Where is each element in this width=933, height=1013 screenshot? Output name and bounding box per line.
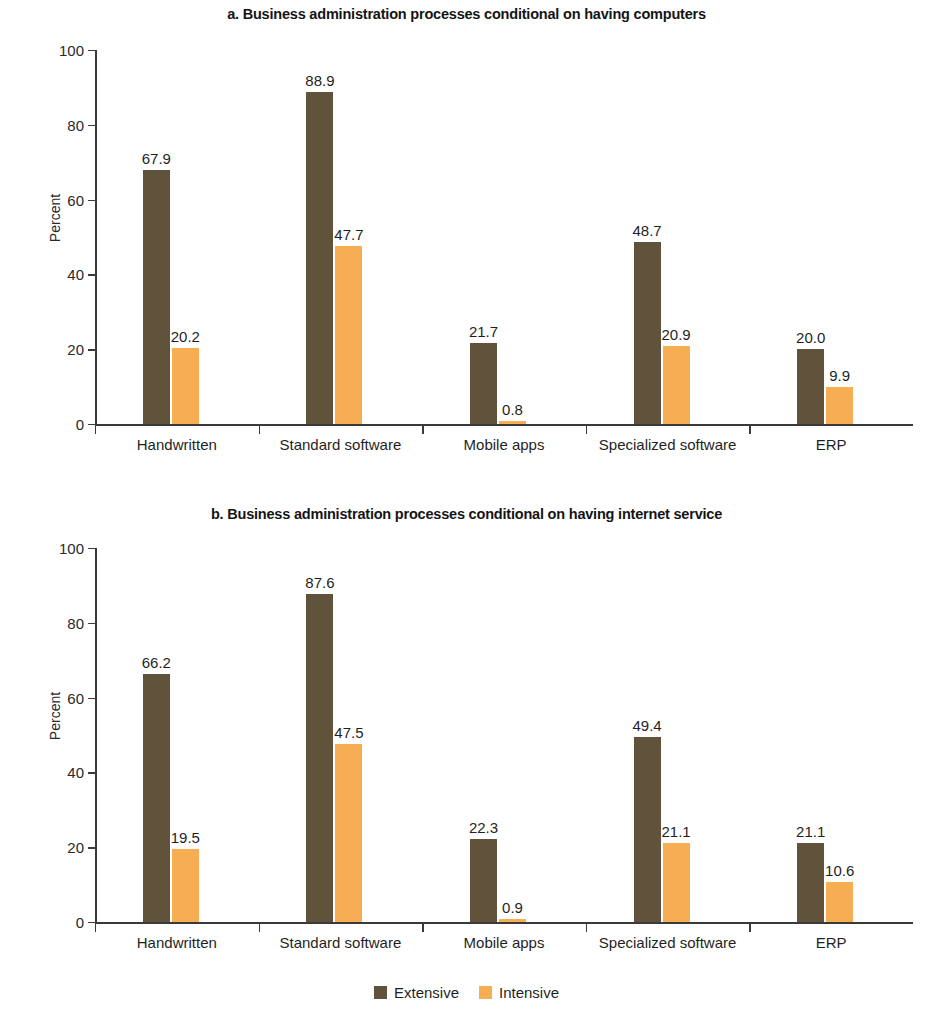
y-tick-label: 0 (76, 914, 84, 931)
bar-extensive: 22.3 (470, 839, 497, 922)
panel-a-y-axis-title: Percent (47, 188, 63, 248)
bar-intensive: 20.9 (663, 346, 690, 424)
bar-intensive: 9.9 (826, 387, 853, 424)
bar-value-label: 20.9 (661, 326, 690, 343)
chart-panel-a: a. Business administration processes con… (0, 0, 933, 480)
panel-a-x-axis-line (95, 424, 913, 426)
bar-intensive: 0.9 (499, 919, 526, 922)
y-tick-label: 40 (67, 764, 84, 781)
bar-intensive: 19.5 (172, 849, 199, 922)
bar-group: 21.110.6ERP (797, 548, 853, 922)
bar-group: 22.30.9Mobile apps (470, 548, 526, 922)
y-tick-mark (88, 200, 95, 201)
y-tick-mark (88, 274, 95, 275)
panel-b-y-axis-title: Percent (47, 686, 63, 746)
x-tick-mark (749, 922, 750, 932)
y-tick-mark (88, 349, 95, 350)
bar-intensive: 10.6 (826, 882, 853, 922)
x-axis-category-label: Handwritten (137, 934, 217, 951)
y-tick-label: 40 (67, 266, 84, 283)
panel-b-y-axis-line (95, 548, 97, 922)
x-tick-mark (586, 922, 587, 932)
legend-swatch-icon (479, 986, 492, 999)
panel-a-plot-area: Percent 02040608010067.920.2Handwritten8… (95, 50, 913, 424)
chart-page: a. Business administration processes con… (0, 0, 933, 1013)
legend-swatch-icon (374, 986, 387, 999)
x-axis-category-label: Specialized software (599, 934, 737, 951)
x-tick-mark (422, 424, 423, 434)
y-tick-label: 100 (59, 540, 84, 557)
chart-legend: ExtensiveIntensive (0, 984, 933, 1001)
bar-value-label: 47.5 (334, 724, 363, 741)
y-tick-label: 20 (67, 839, 84, 856)
bar-extensive: 48.7 (634, 242, 661, 424)
panel-b-x-axis-line (95, 922, 913, 924)
bar-value-label: 9.9 (829, 367, 850, 384)
legend-label: Intensive (499, 984, 559, 1001)
y-tick-label: 100 (59, 42, 84, 59)
y-tick-label: 80 (67, 614, 84, 631)
y-tick-mark (88, 424, 95, 425)
bar-value-label: 0.9 (502, 899, 523, 916)
x-tick-mark (95, 922, 96, 932)
bar-value-label: 10.6 (825, 862, 854, 879)
y-tick-mark (88, 50, 95, 51)
x-axis-category-label: ERP (816, 436, 847, 453)
bar-group: 48.720.9Specialized software (634, 50, 690, 424)
bar-extensive: 67.9 (143, 170, 170, 424)
y-tick-mark (88, 623, 95, 624)
y-tick-label: 80 (67, 116, 84, 133)
bar-extensive: 20.0 (797, 349, 824, 424)
legend-label: Extensive (394, 984, 459, 1001)
x-axis-category-label: Standard software (280, 934, 402, 951)
bar-value-label: 47.7 (334, 226, 363, 243)
y-tick-mark (88, 548, 95, 549)
bar-intensive: 20.2 (172, 348, 199, 424)
x-axis-category-label: Mobile apps (464, 934, 545, 951)
panel-a-y-axis-line (95, 50, 97, 424)
y-tick-mark (88, 847, 95, 848)
bar-group: 88.947.7Standard software (306, 50, 362, 424)
panel-a-title: a. Business administration processes con… (0, 6, 933, 22)
bar-extensive: 87.6 (306, 594, 333, 922)
bar-value-label: 21.7 (469, 323, 498, 340)
x-tick-mark (586, 424, 587, 434)
bar-group: 20.09.9ERP (797, 50, 853, 424)
x-axis-category-label: Mobile apps (464, 436, 545, 453)
bar-value-label: 88.9 (305, 72, 334, 89)
bar-value-label: 21.1 (796, 823, 825, 840)
bar-group: 87.647.5Standard software (306, 548, 362, 922)
chart-panel-b: b. Business administration processes con… (0, 500, 933, 960)
bar-value-label: 48.7 (632, 222, 661, 239)
bar-intensive: 47.7 (335, 246, 362, 424)
x-tick-mark (259, 424, 260, 434)
bar-extensive: 21.7 (470, 343, 497, 424)
bar-value-label: 21.1 (661, 823, 690, 840)
x-axis-category-label: Standard software (280, 436, 402, 453)
bar-extensive: 21.1 (797, 843, 824, 922)
bar-value-label: 20.2 (171, 328, 200, 345)
bar-value-label: 87.6 (305, 574, 334, 591)
bar-value-label: 67.9 (142, 150, 171, 167)
y-tick-mark (88, 772, 95, 773)
panel-b-plot-area: Percent 02040608010066.219.5Handwritten8… (95, 548, 913, 922)
y-tick-label: 0 (76, 416, 84, 433)
x-tick-mark (749, 424, 750, 434)
x-axis-category-label: Handwritten (137, 436, 217, 453)
bar-value-label: 22.3 (469, 819, 498, 836)
legend-item-intensive: Intensive (479, 984, 559, 1001)
x-tick-mark (422, 922, 423, 932)
x-axis-category-label: ERP (816, 934, 847, 951)
bar-extensive: 88.9 (306, 92, 333, 424)
bar-value-label: 0.8 (502, 401, 523, 418)
bar-extensive: 66.2 (143, 674, 170, 922)
y-tick-label: 60 (67, 689, 84, 706)
bar-group: 49.421.1Specialized software (634, 548, 690, 922)
bar-intensive: 0.8 (499, 421, 526, 424)
bar-value-label: 49.4 (632, 717, 661, 734)
y-tick-label: 60 (67, 191, 84, 208)
legend-item-extensive: Extensive (374, 984, 459, 1001)
bar-group: 67.920.2Handwritten (143, 50, 199, 424)
bar-group: 21.70.8Mobile apps (470, 50, 526, 424)
bar-value-label: 20.0 (796, 329, 825, 346)
